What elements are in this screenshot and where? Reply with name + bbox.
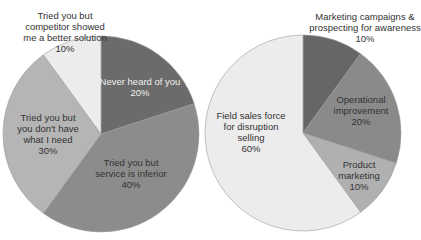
- label-competitor: Tried you but competitor showed me a bet…: [23, 10, 106, 54]
- label-line: Operational: [334, 94, 389, 105]
- label-line: marketing: [338, 170, 380, 181]
- label-line: competitor showed: [23, 21, 106, 32]
- label-line: Tried you but: [95, 157, 166, 168]
- label-line: you don't have: [17, 123, 79, 134]
- label-value: 60%: [216, 143, 285, 154]
- label-line: me a better solution: [23, 32, 106, 43]
- label-line: Marketing campaigns &: [309, 11, 420, 22]
- label-line: what I need: [17, 134, 79, 145]
- label-value: 40%: [95, 179, 166, 190]
- label-value: 10%: [309, 33, 420, 44]
- label-line: Field sales force: [216, 110, 285, 121]
- label-line: prospecting for awareness: [309, 22, 420, 33]
- label-line: for disruption: [216, 121, 285, 132]
- label-field-sales: Field sales force for disruption selling…: [216, 110, 285, 154]
- label-value: 20%: [334, 116, 389, 127]
- label-dont-have: Tried you but you don't have what I need…: [17, 112, 79, 156]
- label-marketing-campaigns: Marketing campaigns & prospecting for aw…: [309, 11, 420, 44]
- label-line: improvement: [334, 105, 389, 116]
- label-line: selling: [216, 132, 285, 143]
- label-value: 30%: [17, 145, 79, 156]
- label-service-inferior: Tried you but service is inferior 40%: [95, 157, 166, 190]
- label-line: service is inferior: [95, 168, 166, 179]
- label-value: 10%: [338, 181, 380, 192]
- label-value: 10%: [23, 43, 106, 54]
- label-line: Tried you but: [23, 10, 106, 21]
- label-operational: Operational improvement 20%: [334, 94, 389, 127]
- label-value: 20%: [100, 87, 181, 98]
- label-product-marketing: Product marketing 10%: [338, 159, 380, 192]
- label-line: Never heard of you: [100, 76, 181, 87]
- label-line: Product: [338, 159, 380, 170]
- label-line: Tried you but: [17, 112, 79, 123]
- label-never-heard: Never heard of you 20%: [100, 76, 181, 98]
